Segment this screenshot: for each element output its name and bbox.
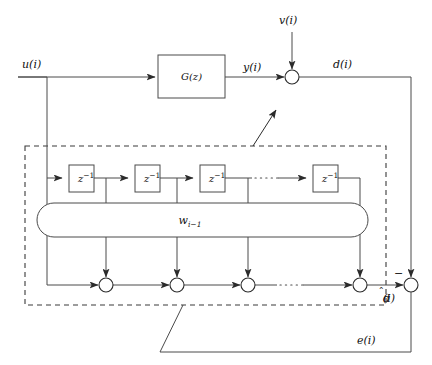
wire-error-diagonal-into-filter xyxy=(160,305,183,352)
delay-box-2: z−1 xyxy=(135,165,160,192)
adder-error xyxy=(404,278,418,292)
error-adder-minus-sign: − xyxy=(394,267,403,280)
label-d: d(i) xyxy=(333,58,352,71)
label-d-hat: d̂(i) xyxy=(379,287,395,306)
label-e: e(i) xyxy=(357,334,376,347)
block-diagram-canvas: G(z) z−1 xyxy=(0,0,432,365)
plant-block-label: G(z) xyxy=(181,71,202,82)
adder-tap-1 xyxy=(99,278,113,292)
label-y: y(i) xyxy=(242,61,261,74)
adder-tap-4 xyxy=(353,278,367,292)
label-v: v(i) xyxy=(279,14,297,27)
delay-box-4: z−1 xyxy=(313,165,338,192)
diagram-svg: G(z) z−1 xyxy=(0,0,432,365)
label-u: u(i) xyxy=(22,58,41,71)
adder-tap-2 xyxy=(170,278,184,292)
weight-vector-block xyxy=(37,203,368,237)
adder-plant-noise xyxy=(285,70,299,84)
annotation-pointer-arrow xyxy=(253,110,276,146)
delay-box-1: z−1 xyxy=(69,165,94,192)
delay-box-3: z−1 xyxy=(200,165,225,192)
adder-tap-3 xyxy=(241,278,255,292)
